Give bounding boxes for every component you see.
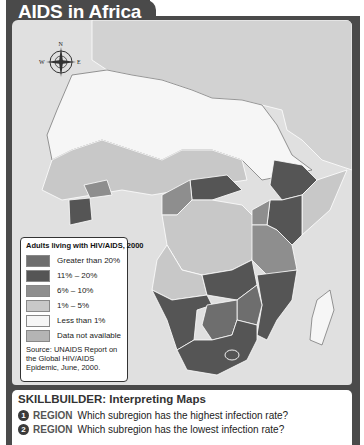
legend-label: 6% – 10% [57,286,93,295]
number-2-icon: 2 [18,424,29,435]
question-text: Which subregion has the highest infectio… [77,410,288,421]
svg-text:N: N [59,41,64,47]
legend-label: 1% – 5% [57,301,89,310]
number-1-icon: 1 [18,410,29,421]
legend-swatch [26,315,50,327]
question-tag: REGION [33,410,72,421]
legend-swatch [26,300,50,312]
lesotho-region [225,350,239,360]
legend-item-na: Data not available [26,328,122,343]
svg-text:W: W [39,59,45,65]
ivory-coast-region [69,198,92,225]
legend-title: Adults living with HIV/AIDS, 2000 [26,241,122,250]
legend-swatch [26,285,50,297]
legend-swatch [26,330,50,342]
legend-item-gt20: Greater than 20% [26,253,122,268]
legend-source: Source: UNAIDS Report on the Global HIV/… [26,345,122,372]
skillbuilder-panel: SKILLBUILDER: Interpreting Maps 1 REGION… [12,390,352,445]
legend-item-11-20: 11% – 20% [26,268,122,283]
question-tag: REGION [33,424,72,435]
question-1: 1 REGION Which subregion has the highest… [18,408,346,422]
legend-item-1-5: 1% – 5% [26,298,122,313]
uganda-region [252,200,270,225]
legend-label: Greater than 20% [57,256,120,265]
map-legend: Adults living with HIV/AIDS, 2000 Greate… [20,237,128,382]
legend-label: 11% – 20% [57,271,97,280]
legend-label: Less than 1% [57,316,105,325]
legend-item-6-10: 6% – 10% [26,283,122,298]
question-2: 2 REGION Which subregion has the lowest … [18,422,346,436]
legend-label: Data not available [57,331,121,340]
skillbuilder-title: SKILLBUILDER: Interpreting Maps [18,393,346,405]
mozambique-region [257,270,297,340]
madagascar-region [310,290,334,345]
botswana-region [202,300,237,340]
compass-rose-icon: N W E [39,41,81,77]
legend-swatch [26,255,50,267]
legend-swatch [26,270,50,282]
legend-item-lt1: Less than 1% [26,313,122,328]
svg-text:E: E [77,59,81,65]
title-bg [150,0,364,16]
question-text: Which subregion has the lowest infection… [77,424,284,435]
